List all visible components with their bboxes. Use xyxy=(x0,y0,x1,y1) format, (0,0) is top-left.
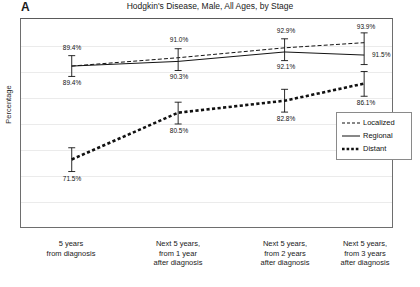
legend[interactable]: Localized Regional Distant xyxy=(336,112,412,160)
legend-label-distant: Distant xyxy=(361,144,386,154)
x-tick-label-4: Next 5 years, from 3 years after diagnos… xyxy=(319,239,411,268)
point-label-localized-3: 92.9% xyxy=(277,27,295,35)
series-localized xyxy=(72,43,364,66)
point-label-distant-1: 71.5% xyxy=(63,175,81,183)
x-tick-label-1: 5 years from diagnosis xyxy=(25,239,117,258)
series-distant-line xyxy=(72,84,364,160)
x-tick-line1: Next 5 years, xyxy=(239,239,331,249)
x-tick-line2: from diagnosis xyxy=(25,249,117,259)
x-tick-line1: Next 5 years, xyxy=(132,239,224,249)
error-bar xyxy=(175,49,182,71)
point-label-regional-3: 92.1% xyxy=(277,63,295,71)
dashed-line-icon xyxy=(341,118,361,128)
x-tick-line3: after diagnosis xyxy=(319,258,411,268)
x-tick-line2: from 1 year xyxy=(132,249,224,259)
error-bar xyxy=(281,39,288,61)
y-axis-label: Percentage xyxy=(4,75,13,135)
x-tick-line1: 5 years xyxy=(25,239,117,249)
error-bar xyxy=(361,33,368,65)
legend-label-regional: Regional xyxy=(361,131,393,141)
x-tick-line2: from 2 years xyxy=(239,249,331,259)
figure-panel: A Hodgkin's Disease, Male, All Ages, by … xyxy=(0,0,420,287)
legend-item-regional[interactable]: Regional xyxy=(341,129,408,142)
series-distant xyxy=(72,84,364,160)
point-label-localized-1: 89.4% xyxy=(63,44,81,52)
x-tick-line2: from 3 years xyxy=(319,249,411,259)
series-regional-line xyxy=(72,52,364,66)
solid-line-icon xyxy=(341,131,361,141)
x-tick-label-3: Next 5 years, from 2 years after diagnos… xyxy=(239,239,331,268)
x-axis-label xyxy=(20,279,393,287)
point-label-distant-4: 86.1% xyxy=(357,99,375,107)
series-regional xyxy=(72,52,364,66)
point-label-distant-3: 82.8% xyxy=(277,115,295,123)
dotted-thick-line-icon xyxy=(341,144,361,154)
point-label-localized-2: 91.0% xyxy=(170,36,188,44)
point-label-distant-2: 80.5% xyxy=(170,127,188,135)
legend-item-localized[interactable]: Localized xyxy=(341,116,408,129)
point-label-regional-4: 91.5% xyxy=(372,51,390,59)
chart-title: Hodgkin's Disease, Male, All Ages, by St… xyxy=(60,1,360,12)
x-tick-label-2: Next 5 years, from 1 year after diagnosi… xyxy=(132,239,224,268)
point-label-regional-1: 89.4% xyxy=(63,79,81,87)
legend-item-distant[interactable]: Distant xyxy=(341,142,408,155)
series-localized-line xyxy=(72,43,364,66)
x-tick-line3: after diagnosis xyxy=(239,258,331,268)
point-label-localized-4: 93.9% xyxy=(357,23,375,31)
point-label-regional-2: 90.3% xyxy=(170,73,188,81)
legend-label-localized: Localized xyxy=(361,118,395,128)
x-tick-line1: Next 5 years, xyxy=(319,239,411,249)
panel-letter: A xyxy=(21,0,30,14)
x-tick-line3: after diagnosis xyxy=(132,258,224,268)
